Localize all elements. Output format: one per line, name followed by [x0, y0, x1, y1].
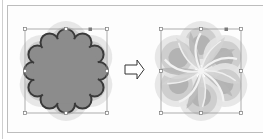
handle-top-left[interactable]	[160, 28, 163, 31]
handle-top-center[interactable]	[200, 28, 203, 31]
handle-bottom-center[interactable]	[65, 112, 68, 115]
handle-bottom-right[interactable]	[240, 112, 243, 115]
handle-top-left[interactable]	[24, 28, 27, 31]
handle-bottom-center[interactable]	[200, 112, 203, 115]
handle-middle-right[interactable]	[240, 70, 243, 73]
handle-top-right[interactable]	[240, 28, 243, 31]
handle-middle-left[interactable]	[160, 70, 163, 73]
handle-middle-left[interactable]	[24, 70, 27, 73]
after-panel	[147, 21, 256, 121]
rotate-handle[interactable]	[225, 28, 229, 32]
handle-top-right[interactable]	[106, 28, 109, 31]
handle-top-center[interactable]	[65, 28, 68, 31]
figure-canvas	[0, 0, 263, 139]
handle-middle-right[interactable]	[106, 70, 109, 73]
handle-bottom-left[interactable]	[160, 112, 163, 115]
arrow-right-outline-icon	[125, 60, 144, 79]
handle-bottom-left[interactable]	[24, 112, 27, 115]
rotate-handle[interactable]	[89, 28, 93, 32]
handle-bottom-right[interactable]	[106, 112, 109, 115]
before-panel	[12, 21, 121, 121]
